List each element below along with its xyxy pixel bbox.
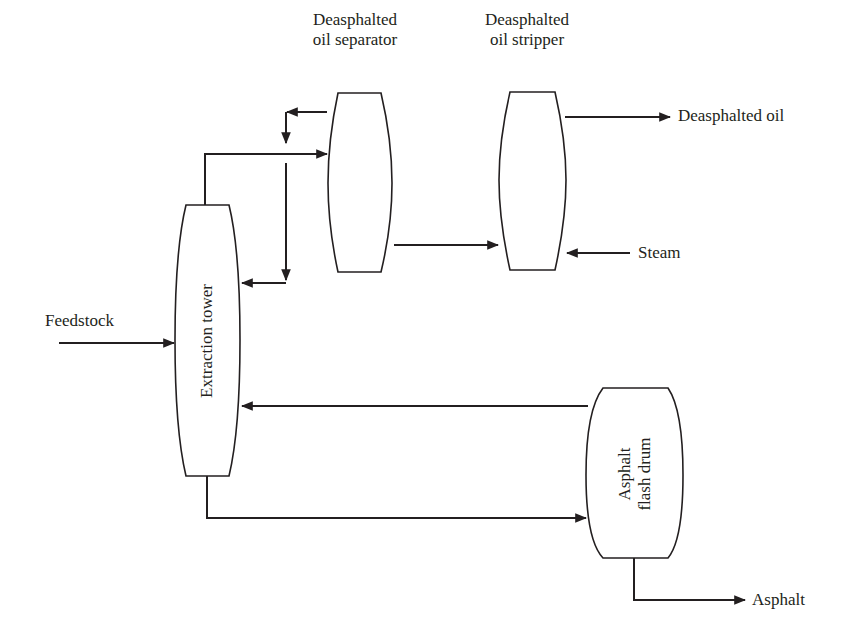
tower-overhead-stream — [205, 154, 327, 205]
stripper-vessel — [499, 92, 566, 270]
stripper-label-line1: Deasphalted — [462, 10, 592, 30]
separator-vessel — [328, 93, 392, 272]
steam-label: Steam — [638, 243, 681, 263]
asphalt-stream — [634, 558, 745, 600]
flash-drum-label-line1: Asphalt — [615, 424, 635, 524]
feedstock-label: Feedstock — [45, 311, 114, 331]
process-flow-diagram — [0, 0, 857, 638]
separator-label-line1: Deasphalted — [290, 10, 420, 30]
extraction-tower-label: Extraction tower — [197, 271, 217, 411]
flash-drum-label: Asphalt flash drum — [615, 424, 655, 524]
separator-label: Deasphalted oil separator — [290, 10, 420, 50]
stripper-label: Deasphalted oil stripper — [462, 10, 592, 50]
stripper-label-line2: oil stripper — [462, 30, 592, 50]
asphalt-label: Asphalt — [752, 590, 805, 610]
flash-drum-label-line2: flash drum — [635, 424, 655, 524]
separator-label-line2: oil separator — [290, 30, 420, 50]
tower-bottoms-stream — [207, 476, 586, 518]
deasphalted-oil-label: Deasphalted oil — [678, 106, 784, 126]
